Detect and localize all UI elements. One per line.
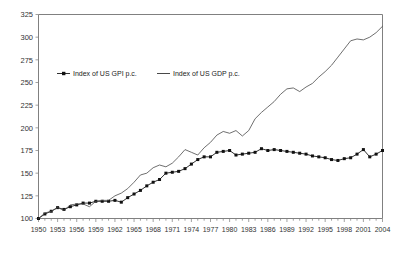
data-point-marker <box>234 154 237 157</box>
y-tick-label: 200 <box>20 124 33 133</box>
data-point-marker <box>133 193 136 196</box>
series-line-gdp <box>39 26 383 218</box>
legend-swatch-marker <box>62 72 65 75</box>
data-point-marker <box>349 156 352 159</box>
x-tick-label: 2001 <box>356 226 372 233</box>
data-point-marker <box>279 149 282 152</box>
x-tick-label: 1968 <box>145 226 161 233</box>
y-axis-ticks: 100125150175200225250275300325 <box>20 10 38 223</box>
x-tick-label: 1986 <box>260 226 276 233</box>
data-point-marker <box>152 181 155 184</box>
y-tick-label: 325 <box>20 10 33 19</box>
x-tick-label: 1992 <box>298 226 314 233</box>
x-tick-label: 1977 <box>203 226 219 233</box>
x-tick-label: 1965 <box>126 226 142 233</box>
y-tick-label: 175 <box>20 146 33 155</box>
y-tick-label: 300 <box>20 33 33 42</box>
axis-lines <box>39 15 383 219</box>
data-point-marker <box>305 153 308 156</box>
x-tick-label: 1995 <box>317 226 333 233</box>
x-tick-label: 1989 <box>279 226 295 233</box>
data-point-marker <box>285 150 288 153</box>
x-tick-label: 1950 <box>31 226 47 233</box>
data-point-marker <box>113 199 116 202</box>
x-tick-label: 1980 <box>222 226 238 233</box>
data-point-marker <box>368 155 371 158</box>
data-point-marker <box>196 158 199 161</box>
x-tick-label: 1959 <box>88 226 104 233</box>
x-tick-label: 1974 <box>184 226 200 233</box>
line-chart: 100125150175200225250275300325 195019531… <box>0 0 402 254</box>
data-point-marker <box>247 152 250 155</box>
data-point-marker <box>254 151 257 154</box>
data-point-marker <box>336 159 339 162</box>
data-point-marker <box>298 152 301 155</box>
data-point-marker <box>158 178 161 181</box>
data-point-marker <box>292 151 295 154</box>
y-tick-label: 150 <box>20 169 33 178</box>
data-point-marker <box>177 170 180 173</box>
data-point-marker <box>260 147 263 150</box>
data-point-marker <box>171 171 174 174</box>
data-point-marker <box>266 149 269 152</box>
x-tick-label: 1956 <box>69 226 85 233</box>
y-tick-label: 275 <box>20 56 33 65</box>
data-point-marker <box>88 202 91 205</box>
data-point-marker <box>375 153 378 156</box>
data-point-marker <box>228 149 231 152</box>
axis-frame <box>39 15 383 219</box>
data-series-group <box>37 26 384 220</box>
x-tick-label: 1971 <box>164 226 180 233</box>
data-point-marker <box>273 148 276 151</box>
data-point-marker <box>184 167 187 170</box>
data-point-marker <box>324 156 327 159</box>
legend-label-1: Index of US GDP p.c. <box>173 70 240 78</box>
y-tick-label: 125 <box>20 192 33 201</box>
data-point-marker <box>317 155 320 158</box>
data-point-marker <box>222 150 225 153</box>
y-tick-label: 225 <box>20 101 33 110</box>
legend-label-0: Index of US GPI p.c. <box>73 70 137 78</box>
x-axis-ticks: 1950195319561959196219651968197119741977… <box>31 219 391 233</box>
data-point-marker <box>215 151 218 154</box>
data-point-marker <box>381 149 384 152</box>
data-point-marker <box>126 196 129 199</box>
data-point-marker <box>356 153 359 156</box>
data-point-marker <box>190 163 193 166</box>
data-point-marker <box>145 184 148 187</box>
x-tick-label: 1953 <box>50 226 66 233</box>
data-point-marker <box>209 155 212 158</box>
data-point-marker <box>164 172 167 175</box>
data-point-marker <box>343 157 346 160</box>
y-tick-label: 250 <box>20 78 33 87</box>
chart-container: 100125150175200225250275300325 195019531… <box>0 0 402 254</box>
data-point-marker <box>330 158 333 161</box>
data-point-marker <box>362 148 365 151</box>
data-point-marker <box>203 155 206 158</box>
x-tick-label: 2004 <box>375 226 391 233</box>
data-point-marker <box>311 154 314 157</box>
data-point-marker <box>241 153 244 156</box>
data-point-marker <box>139 189 142 192</box>
y-tick-label: 100 <box>20 214 33 223</box>
data-point-marker <box>120 201 123 204</box>
x-tick-label: 1983 <box>241 226 257 233</box>
x-tick-label: 1962 <box>107 226 123 233</box>
chart-legend: Index of US GPI p.c.Index of US GDP p.c. <box>57 70 240 78</box>
x-tick-label: 1998 <box>336 226 352 233</box>
